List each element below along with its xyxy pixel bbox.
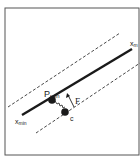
upper-boundary-line xyxy=(8,33,120,107)
diagram-canvas: Pmin F c xmin xm xyxy=(0,0,140,158)
c-label: c xyxy=(70,115,74,122)
x-max-label: xm xyxy=(130,40,138,48)
force-label: F xyxy=(75,96,80,106)
c-point xyxy=(61,108,69,116)
spring-connector xyxy=(55,101,65,108)
x-min-label: xmin xyxy=(15,118,27,126)
force-arrow-shaft xyxy=(68,95,74,107)
frame-border xyxy=(5,8,139,155)
p-min-label: Pmin xyxy=(44,89,60,99)
